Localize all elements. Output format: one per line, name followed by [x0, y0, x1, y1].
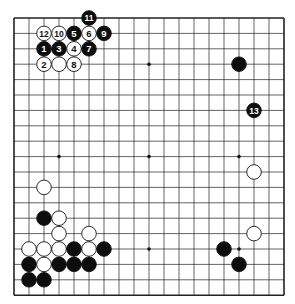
- black-stone: [67, 257, 82, 272]
- move-number-label: 9: [101, 28, 106, 39]
- move-number-label: 8: [71, 59, 76, 70]
- white-stone: [22, 242, 37, 257]
- white-stone: 2: [37, 57, 52, 72]
- move-number-label: 13: [249, 106, 259, 116]
- white-stone: [52, 242, 67, 257]
- black-stone: [37, 211, 52, 226]
- move-number-label: 2: [41, 59, 46, 70]
- white-stone: 4: [67, 42, 82, 57]
- go-board: 11121056913472813: [0, 0, 295, 304]
- stones: 11121056913472813: [22, 11, 262, 287]
- white-stone: [247, 165, 262, 180]
- star-point: [57, 155, 61, 159]
- move-number-label: 3: [56, 43, 61, 54]
- white-stone: 12: [37, 26, 52, 41]
- black-stone: [232, 257, 247, 272]
- black-stone: 11: [82, 11, 97, 26]
- black-stone: [22, 257, 37, 272]
- move-number-label: 4: [71, 43, 77, 54]
- black-stone: [37, 273, 52, 288]
- move-number-label: 12: [39, 29, 49, 39]
- black-stone: [217, 242, 232, 257]
- white-stone: [52, 226, 67, 241]
- white-stone: [37, 257, 52, 272]
- move-number-label: 10: [54, 29, 64, 39]
- star-point: [237, 155, 241, 159]
- black-stone: [22, 273, 37, 288]
- black-stone: 1: [37, 42, 52, 57]
- white-stone: [37, 242, 52, 257]
- white-stone: [52, 57, 67, 72]
- white-stone: [82, 226, 97, 241]
- black-stone: [232, 57, 247, 72]
- move-number-label: 1: [41, 43, 47, 54]
- move-number-label: 7: [86, 43, 91, 54]
- white-stone: [37, 180, 52, 195]
- white-stone: [247, 226, 262, 241]
- star-point: [147, 247, 151, 251]
- white-stone: 8: [67, 57, 82, 72]
- star-point: [147, 62, 151, 66]
- black-stone: [82, 257, 97, 272]
- black-stone: 9: [97, 26, 112, 41]
- black-stone: 3: [52, 42, 67, 57]
- move-number-label: 5: [71, 28, 77, 39]
- black-stone: 13: [247, 103, 262, 118]
- white-stone: [82, 242, 97, 257]
- move-number-label: 11: [85, 13, 94, 23]
- white-stone: 6: [82, 26, 97, 41]
- star-point: [147, 155, 151, 159]
- black-stone: [97, 242, 112, 257]
- black-stone: [67, 242, 82, 257]
- black-stone: [52, 257, 67, 272]
- black-stone: 7: [82, 42, 97, 57]
- black-stone: 5: [67, 26, 82, 41]
- star-point: [237, 247, 241, 251]
- move-number-label: 6: [86, 28, 91, 39]
- white-stone: [52, 211, 67, 226]
- white-stone: 10: [52, 26, 67, 41]
